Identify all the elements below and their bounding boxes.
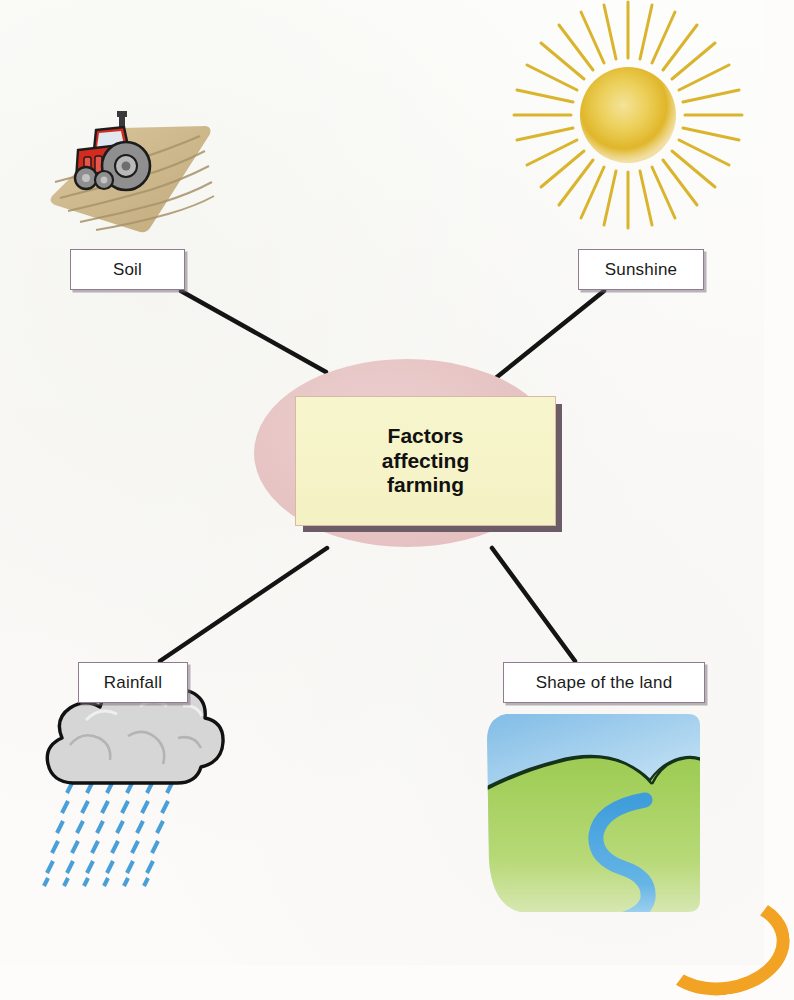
hills-with-river-image xyxy=(485,710,713,920)
connector-sunshine xyxy=(492,291,604,381)
connector-soil xyxy=(181,291,326,372)
node-label-shape-text: Shape of the land xyxy=(536,673,673,693)
center-line-3: farming xyxy=(387,473,464,496)
node-label-soil-text: Soil xyxy=(113,260,142,280)
connector-shape xyxy=(492,548,575,661)
node-label-rainfall-text: Rainfall xyxy=(104,673,162,693)
node-label-sunshine[interactable]: Sunshine xyxy=(578,249,704,290)
node-label-sunshine-text: Sunshine xyxy=(605,260,678,280)
center-box: Factors affecting farming xyxy=(295,396,556,526)
tractor-ploughed-field-image xyxy=(51,111,214,232)
node-label-rainfall[interactable]: Rainfall xyxy=(78,662,188,703)
connector-rainfall xyxy=(160,548,327,661)
rain-cloud-image xyxy=(44,684,223,886)
center-line-2: affecting xyxy=(382,449,470,472)
sun-with-rays-image xyxy=(514,2,742,228)
node-label-shape-of-the-land[interactable]: Shape of the land xyxy=(503,662,705,703)
center-label: Factors affecting farming xyxy=(382,424,470,498)
node-label-soil[interactable]: Soil xyxy=(70,249,185,290)
center-line-1: Factors xyxy=(388,424,464,447)
